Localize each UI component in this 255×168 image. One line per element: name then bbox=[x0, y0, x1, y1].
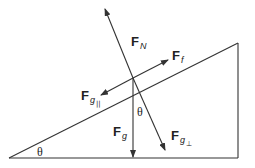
svg-text:g: g bbox=[180, 135, 185, 145]
svg-text:F: F bbox=[171, 128, 179, 143]
theta-label-block: θ bbox=[137, 105, 143, 119]
label-friction-force: F f bbox=[172, 48, 185, 65]
svg-text:⊥: ⊥ bbox=[186, 140, 192, 148]
svg-text:F: F bbox=[81, 88, 89, 103]
svg-text:F: F bbox=[131, 34, 139, 49]
svg-text:F: F bbox=[113, 124, 121, 139]
normal-force-arrow bbox=[105, 9, 133, 78]
svg-text:g: g bbox=[90, 95, 95, 105]
gravity-parallel-arrow bbox=[101, 78, 133, 95]
label-gravity-perpendicular: F g ⊥ bbox=[171, 128, 192, 148]
label-gravity: F g bbox=[113, 124, 127, 141]
svg-text:F: F bbox=[172, 48, 180, 63]
theta-label-incline: θ bbox=[37, 145, 43, 159]
friction-force-arrow bbox=[133, 60, 168, 78]
svg-text:g: g bbox=[122, 131, 127, 141]
label-gravity-parallel: F g || bbox=[81, 88, 101, 108]
svg-text:||: || bbox=[96, 100, 101, 108]
label-normal-force: F N bbox=[131, 34, 147, 51]
svg-text:f: f bbox=[181, 55, 185, 65]
incline-force-diagram: F N F f F g || F g F g ⊥ θ θ bbox=[0, 0, 255, 168]
svg-text:N: N bbox=[140, 41, 147, 51]
